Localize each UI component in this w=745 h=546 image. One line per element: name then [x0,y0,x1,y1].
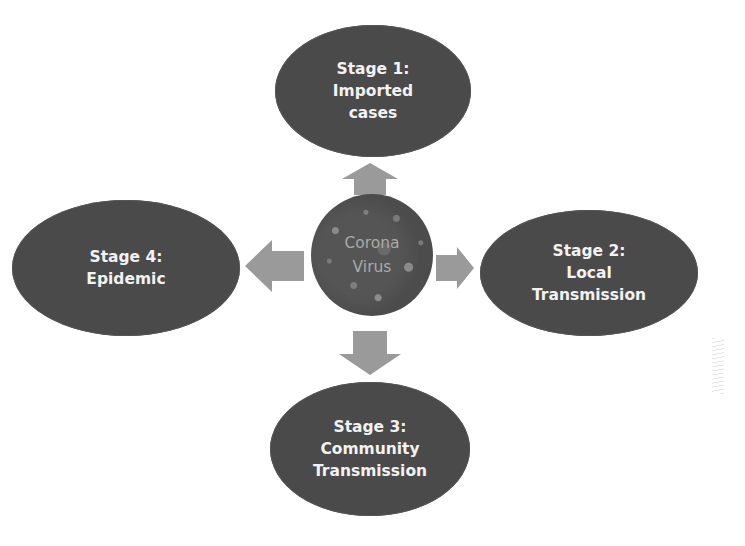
stage-3-ellipse: Stage 3: Community Transmission [270,382,470,516]
stage-3-label-line2: Transmission [313,460,427,482]
corona-virus-circle: Corona Virus [311,194,433,316]
stage-2-label-line2: Transmission [532,284,646,306]
stage-4-ellipse: Stage 4: Epidemic [12,200,240,336]
stage-1-label-line1: Imported [333,80,413,102]
stage-3-label-line1: Community [313,438,427,460]
corona-stages-diagram: Stage 1: Imported cases Stage 2: Local T… [0,0,745,546]
faint-watermark-mark [712,338,724,394]
stage-4-label: Epidemic [86,268,165,290]
center-label-line2: Virus [344,255,399,279]
stage-4-title: Stage 4: [86,246,165,268]
center-label-line1: Corona [344,231,399,255]
stage-3-title: Stage 3: [313,416,427,438]
arrow-left-icon [244,239,306,293]
arrow-down-icon [337,330,403,376]
stage-2-label-line1: Local [532,262,646,284]
stage-1-ellipse: Stage 1: Imported cases [275,25,471,157]
stage-2-ellipse: Stage 2: Local Transmission [480,210,698,336]
arrow-right-icon [435,246,475,290]
stage-2-title: Stage 2: [532,240,646,262]
stage-1-label-line2: cases [333,102,413,124]
stage-1-title: Stage 1: [333,58,413,80]
arrow-up-icon [340,162,400,196]
